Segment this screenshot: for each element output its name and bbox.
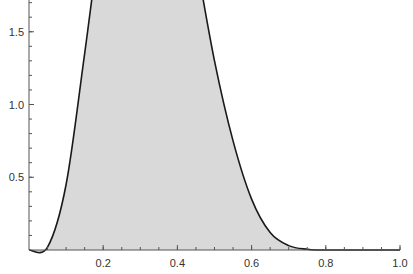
filled-area: [29, 0, 400, 253]
y-tick-label: 1.0: [9, 99, 24, 111]
x-tick-label: 0.8: [318, 257, 333, 269]
plot-area: [29, 0, 400, 253]
y-tick-label: 1.5: [9, 26, 24, 38]
y-tick-group: 0.51.01.52.02.53.0: [9, 0, 34, 235]
x-tick-label: 0.4: [170, 257, 185, 269]
x-tick-label: 0.6: [244, 257, 259, 269]
x-tick-label: 1.0: [392, 257, 407, 269]
density-chart: 0.20.40.60.81.0 0.51.01.52.02.53.0: [0, 0, 413, 274]
x-tick-label: 0.2: [96, 257, 111, 269]
y-tick-label: 0.5: [9, 171, 24, 183]
